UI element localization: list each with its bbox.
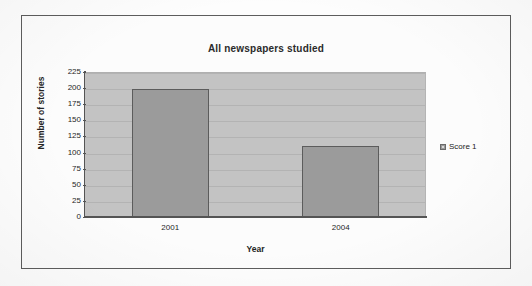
x-axis-tick-label: 2004 [311,223,371,232]
y-axis-tick-mark [83,136,86,137]
legend-swatch-icon [440,144,446,150]
y-axis-tick-label: 175 [51,100,81,108]
y-axis-tick-label: 0 [51,213,81,221]
y-axis-tick-mark [83,120,86,121]
legend-label: Score 1 [449,142,477,151]
chart-legend: Score 1 [440,142,477,151]
y-axis-tick-label: 200 [51,84,81,92]
bar [132,89,209,218]
chart-title: All newspapers studied [22,43,510,54]
x-axis-line [85,216,427,218]
y-axis-tick-mark [83,72,86,73]
x-axis-title: Year [85,244,426,254]
y-axis-tick-label: 75 [51,165,81,173]
y-axis-title: Number of stories [36,63,46,163]
x-axis-tick-label: 2001 [140,223,200,232]
y-axis-tick-mark [83,169,86,170]
gridline [85,73,425,74]
y-axis-tick-mark [83,104,86,105]
y-axis-tick-label: 225 [51,68,81,76]
y-axis-tick-label: 150 [51,116,81,124]
y-axis-tick-label: 125 [51,132,81,140]
y-axis-tick-labels: 2252001751501251007550250 [48,72,81,217]
chart-frame: All newspapers studied Number of stories… [21,15,511,269]
scanned-page: All newspapers studied Number of stories… [0,0,532,286]
y-axis-tick-label: 25 [51,197,81,205]
y-axis-tick-mark [83,185,86,186]
y-axis-tick-mark [83,153,86,154]
y-axis-tick-mark [83,201,86,202]
y-axis-tick-mark [83,217,86,218]
y-axis-tick-mark [83,88,86,89]
y-axis-tick-label: 100 [51,149,81,157]
plot-area [85,72,426,217]
y-axis-tick-label: 50 [51,181,81,189]
bar [302,146,379,218]
